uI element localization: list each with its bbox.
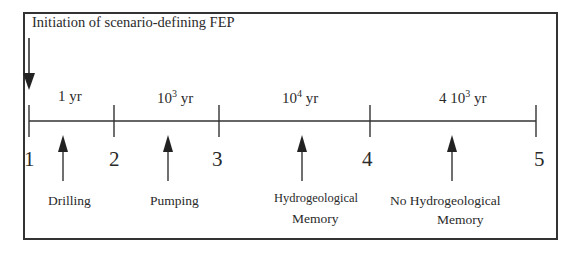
- node-label-2: 2: [109, 147, 120, 172]
- event-label-hydrogeological: Hydrogeological: [274, 191, 358, 206]
- node-label-5: 5: [534, 147, 545, 172]
- initiation-arrow-icon: [23, 38, 35, 90]
- node-label-4: 4: [362, 147, 373, 172]
- event-label-no-hydrogeological: No Hydrogeological: [390, 193, 501, 209]
- event-label-drilling: Drilling: [48, 193, 91, 209]
- pumping-arrow-icon: [163, 135, 173, 181]
- no-hydrogeological-memory-arrow-icon: [447, 135, 457, 181]
- drilling-arrow-icon: [58, 135, 68, 181]
- event-label-no-hydrogeological-memory: Memory: [437, 212, 484, 228]
- duration-label-1: 1 yr: [58, 88, 82, 105]
- hydrogeological-memory-arrow-icon: [297, 135, 307, 181]
- duration-label-3: 104 yr: [282, 88, 318, 107]
- node-label-3: 3: [212, 147, 223, 172]
- duration-label-4: 4 103 yr: [439, 88, 487, 107]
- duration-label-2: 103 yr: [157, 88, 193, 107]
- timeline-graphic: [0, 0, 577, 253]
- event-label-pumping: Pumping: [150, 193, 199, 209]
- node-label-1: 1: [24, 147, 35, 172]
- event-label-hydrogeological-memory: Memory: [292, 211, 339, 227]
- diagram-title: Initiation of scenario-defining FEP: [32, 14, 235, 31]
